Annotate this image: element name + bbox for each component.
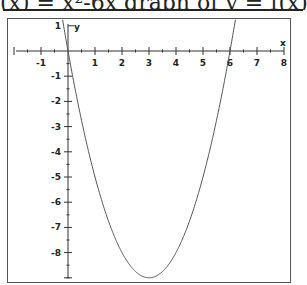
x-tick-label: 8 xyxy=(281,58,287,68)
y-tick-label: -6 xyxy=(51,197,61,207)
y-tick-label: -7 xyxy=(51,222,61,232)
parabola-plot: -1123456781-1-2-3-4-5-6-7-8 x y xyxy=(0,0,307,285)
x-tick-label: 7 xyxy=(254,58,260,68)
x-tick-label: 4 xyxy=(173,58,179,68)
y-tick-label: -2 xyxy=(51,96,61,106)
x-tick-label: 2 xyxy=(119,58,125,68)
y-axis-label: y xyxy=(74,22,80,32)
tick-labels: -1123456781-1-2-3-4-5-6-7-8 xyxy=(36,21,287,258)
y-tick-label: -1 xyxy=(51,71,61,81)
y-tick-label: -3 xyxy=(51,122,61,132)
y-tick-label: 1 xyxy=(55,21,61,31)
y-tick-label: -8 xyxy=(51,248,61,258)
y-tick-label: -5 xyxy=(51,172,61,182)
x-tick-label: 5 xyxy=(200,58,206,68)
x-axis-label: x xyxy=(280,38,286,48)
x-tick-label: 3 xyxy=(146,58,152,68)
y-tick-label: -4 xyxy=(51,147,61,157)
x-tick-label: 1 xyxy=(92,58,98,68)
x-tick-label: -1 xyxy=(36,58,46,68)
ticks xyxy=(14,47,284,278)
